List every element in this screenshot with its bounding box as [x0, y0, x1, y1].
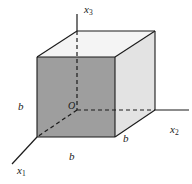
edge-label-b-right: b — [123, 133, 129, 144]
cube-axes-figure: x3 x2 x1 b b b O — [0, 0, 192, 184]
axis-label-x2: x2 — [170, 124, 179, 137]
figure-canvas — [0, 0, 192, 184]
front-left-face — [37, 57, 115, 137]
axis-label-x3: x3 — [84, 4, 93, 17]
edge-label-b-left: b — [18, 101, 24, 112]
origin-label: O — [68, 101, 75, 111]
axis-x1-subscript: 1 — [22, 169, 26, 178]
edge-label-b-bottom: b — [69, 151, 75, 162]
axis-x2-subscript: 2 — [175, 128, 179, 137]
axis-label-x1: x1 — [17, 165, 26, 178]
axis-x1-line — [12, 137, 37, 164]
axis-x3-subscript: 3 — [89, 8, 93, 17]
